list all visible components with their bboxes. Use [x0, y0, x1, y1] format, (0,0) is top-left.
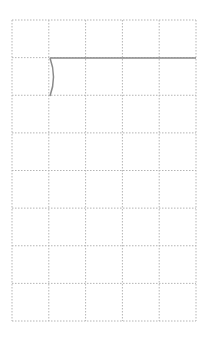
curved-stroke — [50, 58, 54, 96]
drawing-canvas — [0, 0, 210, 339]
dotted-grid — [12, 20, 196, 321]
